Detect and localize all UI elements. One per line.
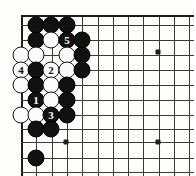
stone-move-number: 2 — [48, 65, 54, 76]
right-crop-edge — [194, 0, 196, 176]
go-board[interactable]: 54213 — [0, 0, 196, 176]
grid-line-horizontal-11 — [21, 172, 196, 173]
stone-black[interactable] — [43, 121, 60, 138]
grid-line-horizontal-10 — [21, 158, 196, 159]
stone-move-number: 1 — [33, 95, 39, 106]
star-point-2 — [156, 140, 161, 145]
star-point-0 — [156, 50, 161, 55]
stone-white[interactable] — [43, 32, 60, 49]
grid-line-horizontal-3 — [21, 55, 196, 56]
stone-black[interactable] — [74, 62, 91, 79]
stone-move-number: 5 — [64, 35, 70, 46]
go-diagram-screenshot: 54213 — [0, 0, 196, 176]
grid-line-horizontal-9 — [21, 142, 196, 143]
star-point-1 — [64, 140, 69, 145]
stone-black[interactable] — [28, 150, 45, 167]
stone-move-number: 4 — [18, 65, 24, 76]
stone-move-number: 3 — [48, 110, 54, 121]
stone-black[interactable] — [59, 107, 76, 124]
